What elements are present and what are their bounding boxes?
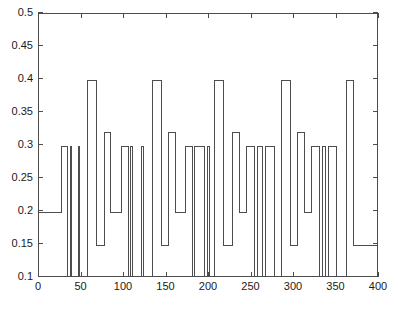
y-tick-0-4 xyxy=(38,78,43,79)
y-tick-0-35 xyxy=(373,111,378,112)
x-axis-label-50: 50 xyxy=(74,281,86,292)
x-tick-50 xyxy=(81,13,82,18)
y-axis-label-0-5: 0.5 xyxy=(0,7,33,18)
x-tick-350 xyxy=(336,272,337,277)
x-axis-label-300: 300 xyxy=(284,281,302,292)
y-axis-label-0-35: 0.35 xyxy=(0,106,33,117)
x-tick-250 xyxy=(251,13,252,18)
x-tick-0 xyxy=(38,272,39,277)
plot-area xyxy=(38,13,378,277)
y-tick-0-45 xyxy=(38,45,43,46)
y-axis-label-0-2: 0.2 xyxy=(0,205,33,216)
y-axis-label-0-15: 0.15 xyxy=(0,238,33,249)
y-axis-label-0-4: 0.4 xyxy=(0,73,33,84)
y-tick-0-4 xyxy=(373,78,378,79)
y-tick-0-15 xyxy=(38,243,43,244)
x-axis-label-100: 100 xyxy=(114,281,132,292)
x-tick-400 xyxy=(378,13,379,18)
y-tick-0-15 xyxy=(373,243,378,244)
y-tick-0-3 xyxy=(373,144,378,145)
y-axis-label-0-3: 0.3 xyxy=(0,139,33,150)
x-tick-50 xyxy=(81,272,82,277)
y-axis-label-0-45: 0.45 xyxy=(0,40,33,51)
x-tick-300 xyxy=(293,13,294,18)
x-tick-400 xyxy=(378,272,379,277)
x-tick-0 xyxy=(38,13,39,18)
x-axis-label-0: 0 xyxy=(35,281,41,292)
x-tick-100 xyxy=(123,272,124,277)
y-axis-label-0-25: 0.25 xyxy=(0,172,33,183)
x-tick-300 xyxy=(293,272,294,277)
waveform-series xyxy=(39,14,378,277)
y-tick-0-45 xyxy=(373,45,378,46)
y-tick-0-3 xyxy=(38,144,43,145)
x-axis-label-150: 150 xyxy=(156,281,174,292)
x-tick-250 xyxy=(251,272,252,277)
x-axis-label-400: 400 xyxy=(369,281,387,292)
x-tick-350 xyxy=(336,13,337,18)
y-tick-0-2 xyxy=(373,210,378,211)
x-axis-label-200: 200 xyxy=(199,281,217,292)
series-line xyxy=(39,80,378,277)
x-axis-label-250: 250 xyxy=(241,281,259,292)
figure-canvas: 0.10.150.20.250.30.350.40.450.5 05010015… xyxy=(0,0,398,310)
y-tick-0-2 xyxy=(38,210,43,211)
x-tick-150 xyxy=(166,272,167,277)
y-tick-0-25 xyxy=(373,177,378,178)
y-tick-0-25 xyxy=(38,177,43,178)
x-tick-150 xyxy=(166,13,167,18)
x-tick-100 xyxy=(123,13,124,18)
y-tick-0-35 xyxy=(38,111,43,112)
x-tick-200 xyxy=(208,13,209,18)
x-tick-200 xyxy=(208,272,209,277)
x-axis-label-350: 350 xyxy=(326,281,344,292)
y-axis-label-0-1: 0.1 xyxy=(0,271,33,282)
